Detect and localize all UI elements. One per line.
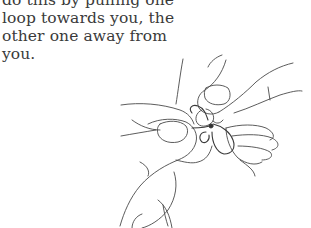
upper-hand-outline bbox=[176, 59, 183, 104]
left-thumbnail bbox=[157, 121, 187, 142]
document-page: do this by pulling one loop towards you,… bbox=[0, 0, 311, 228]
knot bbox=[209, 124, 213, 128]
hands-tying-loop-illustration bbox=[0, 0, 311, 228]
cord-loop-right bbox=[212, 124, 234, 154]
cord-loop-small bbox=[200, 132, 209, 143]
